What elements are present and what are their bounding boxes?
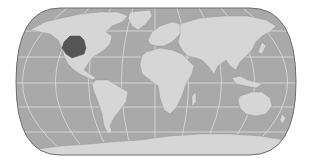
world-map: World map with highlighted region xyxy=(0,0,313,164)
map-svg xyxy=(0,0,313,164)
